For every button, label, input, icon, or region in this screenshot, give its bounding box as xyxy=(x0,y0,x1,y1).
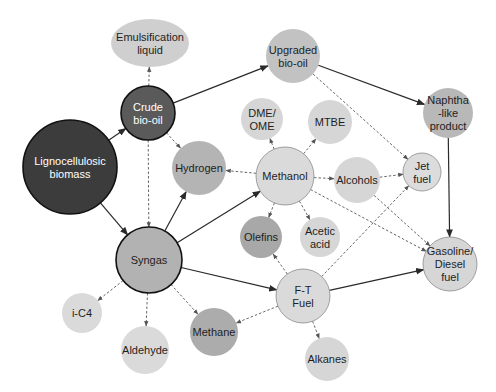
edge-syngas-to-methane xyxy=(171,285,198,315)
edge-crude-bio-oil-to-upgraded-bio-oil xyxy=(173,66,268,103)
node-label: Alkanes xyxy=(307,353,347,365)
node-aldehyde: Aldehyde xyxy=(121,326,169,374)
node-alcohols: Alcohols xyxy=(334,157,380,203)
node-naphtha: Naphtha-likeproduct xyxy=(423,88,473,138)
node-label: Alcohols xyxy=(336,174,378,186)
edge-ft-fuel-to-gasoline-diesel xyxy=(329,270,423,291)
node-label: Jet xyxy=(415,160,430,172)
node-mtbe: MTBE xyxy=(308,100,352,144)
edge-naphtha-to-gasoline-diesel xyxy=(448,138,449,237)
node-label: Methanol xyxy=(262,170,307,182)
node-label: -like xyxy=(438,107,458,119)
node-label: Diesel xyxy=(435,258,466,270)
node-olefins: Olefins xyxy=(240,216,282,258)
node-label: product xyxy=(430,120,467,132)
edge-methanol-to-mtbe xyxy=(304,139,316,154)
edge-ft-fuel-to-olefins xyxy=(273,254,287,274)
node-methanol: Methanol xyxy=(256,147,314,205)
node-label: DME/ xyxy=(248,107,276,119)
node-dme-ome: DME/OME xyxy=(241,98,283,140)
node-emulsification: Emulsificationliquid xyxy=(111,19,189,67)
node-label: Emulsification xyxy=(116,31,184,43)
node-label: Syngas xyxy=(131,254,168,266)
node-label: Gasoline/ xyxy=(427,245,474,257)
node-syngas: Syngas xyxy=(116,227,182,293)
node-gasoline-diesel: Gasoline/Dieselfuel xyxy=(423,237,477,291)
node-label: fuel xyxy=(413,173,431,185)
edge-syngas-to-hydrogen xyxy=(165,192,186,231)
node-methane: Methane xyxy=(190,308,238,356)
node-crude-bio-oil: Crudebio-oil xyxy=(121,86,175,140)
node-i-c4: i-C4 xyxy=(62,293,102,333)
edge-ft-fuel-to-methane xyxy=(236,306,278,323)
node-label: F-T xyxy=(294,284,311,296)
node-label: Aldehyde xyxy=(122,344,168,356)
edge-crude-bio-oil-to-hydrogen xyxy=(166,133,180,148)
edge-alcohols-to-jet-fuel xyxy=(380,174,403,177)
node-label: Olefins xyxy=(244,231,279,243)
node-upgraded-bio-oil: Upgradedbio-oil xyxy=(266,29,320,83)
node-alkanes: Alkanes xyxy=(305,337,349,381)
edge-lignocellulosic-biomass-to-syngas xyxy=(100,203,127,235)
node-label: acid xyxy=(310,238,330,250)
node-label: OME xyxy=(249,120,274,132)
edge-crude-bio-oil-to-syngas xyxy=(148,140,149,227)
edge-syngas-to-aldehyde xyxy=(146,293,147,326)
node-lignocellulosic-biomass: Lignocellulosicbiomass xyxy=(23,120,117,214)
node-label: Fuel xyxy=(292,297,313,309)
node-ft-fuel: F-TFuel xyxy=(276,269,330,323)
node-label: MTBE xyxy=(315,116,346,128)
edge-methanol-to-acetic-acid xyxy=(299,201,310,220)
diagram-canvas: EmulsificationliquidCrudebio-oilLignocel… xyxy=(0,0,496,392)
edge-methanol-to-alcohols xyxy=(314,178,334,179)
node-acetic-acid: Aceticacid xyxy=(300,217,340,257)
node-label: Hydrogen xyxy=(175,162,223,174)
edge-syngas-to-ft-fuel xyxy=(181,268,277,290)
node-label: Acetic xyxy=(305,225,335,237)
node-label: bio-oil xyxy=(278,57,307,69)
edge-methanol-to-hydrogen xyxy=(226,171,256,174)
edge-lignocellulosic-biomass-to-crude-bio-oil xyxy=(109,128,126,140)
edge-syngas-to-i-c4 xyxy=(98,281,123,301)
node-label: i-C4 xyxy=(72,307,92,319)
node-label: Crude xyxy=(133,101,163,113)
node-label: biomass xyxy=(50,168,91,180)
node-label: liquid xyxy=(137,44,163,56)
node-label: Naphtha xyxy=(427,94,469,106)
node-label: bio-oil xyxy=(133,114,162,126)
edge-methanol-to-dme-ome xyxy=(270,139,274,150)
edge-upgraded-bio-oil-to-naphtha xyxy=(318,65,424,104)
edge-ft-fuel-to-alkanes xyxy=(313,321,320,338)
node-jet-fuel: Jetfuel xyxy=(403,153,441,191)
edge-crude-bio-oil-to-emulsification xyxy=(149,67,150,86)
node-label: Upgraded xyxy=(269,44,317,56)
node-hydrogen: Hydrogen xyxy=(172,141,226,195)
edge-methanol-to-olefins xyxy=(269,203,275,218)
node-label: Methane xyxy=(193,326,236,338)
biomass-conversion-diagram: EmulsificationliquidCrudebio-oilLignocel… xyxy=(0,0,496,392)
node-label: fuel xyxy=(441,271,459,283)
node-label: Lignocellulosic xyxy=(34,155,106,167)
